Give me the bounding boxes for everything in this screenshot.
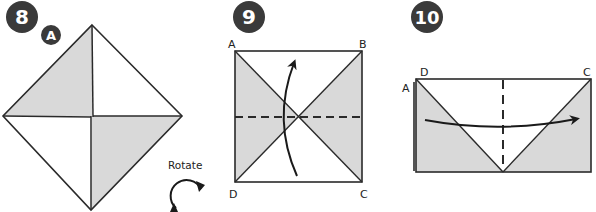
- step-8-badge: 8: [6, 1, 38, 33]
- corner-label-d: D: [229, 188, 237, 201]
- diamond-shape: [3, 25, 182, 210]
- corner-label-a: A: [228, 38, 236, 51]
- step-8-number: 8: [15, 5, 29, 29]
- step-8: 8 A Rotate: [3, 1, 205, 212]
- corner-label-b: B: [359, 38, 367, 51]
- corner-label-a: A: [402, 82, 410, 95]
- step-10-number: 10: [414, 7, 439, 28]
- step-8-sub-badge: A: [41, 25, 61, 45]
- corner-label-c: C: [583, 66, 591, 79]
- square-shape: [235, 51, 362, 182]
- step-10-badge: 10: [411, 1, 443, 33]
- step-9-number: 9: [242, 5, 256, 29]
- rotate-icon: [170, 180, 205, 212]
- origami-diagram: 8 A Rotate 9: [0, 0, 596, 212]
- rectangle-shape: [414, 79, 591, 172]
- step-9: 9 A B D C: [228, 1, 368, 201]
- sub-badge-letter: A: [46, 28, 56, 43]
- step-9-badge: 9: [233, 1, 265, 33]
- corner-label-c: C: [360, 188, 368, 201]
- corner-label-d: D: [420, 66, 428, 79]
- step-10: 10 A D C: [402, 1, 591, 172]
- rotate-label: Rotate: [168, 159, 202, 171]
